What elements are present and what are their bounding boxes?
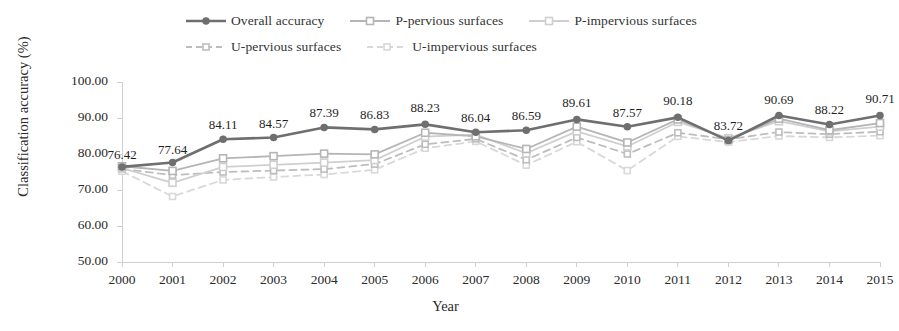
data-point-marker <box>624 168 630 174</box>
data-point-marker <box>170 193 176 199</box>
data-point-marker <box>776 129 782 135</box>
data-label: 83.72 <box>701 118 755 134</box>
data-label: 84.11 <box>196 117 250 133</box>
data-point-marker <box>876 112 884 120</box>
data-point-marker <box>321 159 328 166</box>
data-point-marker <box>674 114 682 122</box>
data-point-marker <box>573 123 580 130</box>
data-point-marker <box>826 121 834 129</box>
data-label: 76.42 <box>95 147 149 163</box>
data-label: 89.61 <box>550 95 604 111</box>
data-point-marker <box>523 157 529 163</box>
data-point-marker <box>118 163 126 171</box>
data-point-marker <box>219 135 227 143</box>
data-point-marker <box>472 129 480 137</box>
data-point-marker <box>169 159 177 167</box>
data-label: 88.23 <box>398 100 452 116</box>
data-point-marker <box>270 153 277 160</box>
data-point-marker <box>270 134 278 142</box>
data-point-marker <box>270 161 277 168</box>
data-point-marker <box>624 123 632 131</box>
data-label: 86.83 <box>348 107 402 123</box>
data-point-marker <box>675 130 681 136</box>
data-point-marker <box>725 137 733 145</box>
data-label: 86.04 <box>449 110 503 126</box>
data-point-marker <box>523 127 531 135</box>
data-label: 87.57 <box>600 105 654 121</box>
data-label: 90.71 <box>853 91 899 107</box>
data-point-marker <box>422 129 429 136</box>
data-point-marker <box>523 145 530 152</box>
data-point-marker <box>775 112 783 120</box>
data-point-marker <box>220 163 227 170</box>
data-point-marker <box>220 177 226 183</box>
data-point-marker <box>877 120 884 127</box>
data-label: 87.39 <box>297 105 351 121</box>
data-point-marker <box>169 179 176 186</box>
data-point-marker <box>371 151 378 158</box>
data-label: 84.57 <box>247 116 301 132</box>
data-point-marker <box>220 155 227 162</box>
data-label: 86.59 <box>499 108 553 124</box>
data-point-marker <box>422 141 428 147</box>
data-point-marker <box>321 166 327 172</box>
data-label: 77.64 <box>146 142 200 158</box>
data-point-marker <box>421 121 429 128</box>
data-label: 90.18 <box>651 93 705 109</box>
data-point-marker <box>169 167 176 174</box>
data-point-marker <box>271 174 277 180</box>
data-point-marker <box>320 124 328 131</box>
data-label: 88.22 <box>802 102 856 118</box>
data-label: 90.69 <box>752 92 806 108</box>
data-point-marker <box>321 150 328 157</box>
data-point-marker <box>371 126 379 134</box>
data-point-marker <box>624 139 631 146</box>
data-point-marker <box>624 151 630 157</box>
data-point-marker <box>573 116 581 124</box>
